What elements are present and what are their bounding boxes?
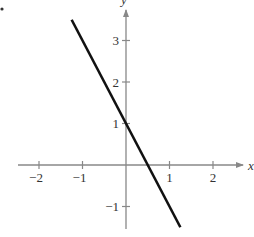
x-tick-label: 2 (210, 170, 217, 185)
x-axis-label: x (247, 158, 254, 173)
bullet-dot (0, 7, 3, 10)
y-tick-label: −1 (105, 199, 119, 214)
y-axis-label: y (119, 0, 127, 7)
ticks: −2−112−1123 (29, 33, 216, 214)
x-tick-label: 1 (166, 170, 173, 185)
y-tick-label: 3 (113, 33, 120, 48)
x-tick-label: −2 (29, 170, 43, 185)
chart-figure: −2−112−1123 x y (0, 0, 254, 237)
y-tick-label: 1 (113, 116, 120, 131)
y-tick-label: 2 (113, 75, 120, 90)
axes (18, 10, 243, 229)
x-tick-label: −1 (73, 170, 87, 185)
